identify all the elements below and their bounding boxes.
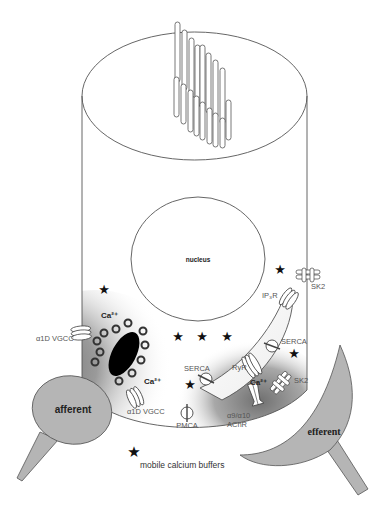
buffer-marker: ★ bbox=[196, 329, 208, 344]
legend-text: mobile calcium buffers bbox=[140, 460, 224, 470]
ca-label-right: Ca²⁺ bbox=[250, 378, 267, 387]
ryr-label: RyR bbox=[232, 363, 247, 372]
ca-label-left-top: Ca²⁺ bbox=[101, 311, 118, 320]
nucleus-label: nucleus bbox=[186, 256, 211, 263]
serca-left-label: SERCA bbox=[184, 364, 210, 373]
sk2-top-label: SK2 bbox=[311, 282, 325, 291]
buffer-marker: ★ bbox=[172, 329, 184, 344]
ip3r-label: IP₃R bbox=[262, 291, 278, 300]
vgcc-side-label: α1D VGCC bbox=[36, 334, 74, 343]
sk2-bottom-label: SK2 bbox=[294, 376, 308, 385]
vgcc-bottom-label: α1D VGCC bbox=[127, 407, 165, 416]
buffer-marker: ★ bbox=[184, 377, 196, 392]
buffer-marker: ★ bbox=[288, 346, 300, 361]
cell-top-surface bbox=[82, 32, 307, 160]
serca-right-label: SERCA bbox=[281, 337, 307, 346]
afferent-label: afferent bbox=[55, 404, 92, 415]
hair-bundle bbox=[174, 22, 231, 148]
legend-symbol: ★ bbox=[127, 443, 140, 461]
legend: ★ mobile calcium buffers bbox=[127, 443, 224, 470]
ca-label-left-bottom: Ca²⁺ bbox=[144, 377, 161, 386]
nucleus: nucleus bbox=[131, 197, 265, 321]
achr-label-line2: AChR bbox=[227, 420, 248, 429]
buffer-marker: ★ bbox=[98, 282, 110, 297]
efferent-label: efferent bbox=[307, 426, 341, 437]
buffer-marker: ★ bbox=[274, 262, 286, 277]
sk2-channel-top bbox=[296, 268, 320, 282]
achr-label-line1: α9/α10 bbox=[227, 411, 250, 420]
buffer-marker: ★ bbox=[221, 329, 233, 344]
pmca-label: PMCA bbox=[176, 421, 198, 430]
hair-cell-diagram: nucleus bbox=[0, 0, 389, 513]
